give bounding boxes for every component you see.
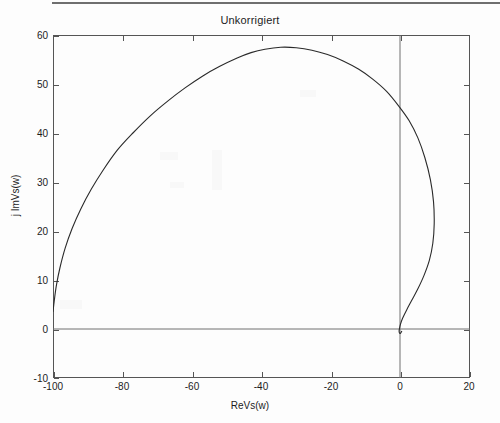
x-tick-label: -60 (185, 381, 199, 392)
y-tick-label: -10 (14, 373, 48, 384)
y-axis-label: j ImVs(w) (10, 156, 21, 236)
y-tick-label: 40 (14, 128, 48, 139)
x-tick-label: -40 (254, 381, 268, 392)
y-tick-label: 50 (14, 79, 48, 90)
chart-title: Unkorrigiert (0, 14, 500, 26)
y-tick-label: 10 (14, 275, 48, 286)
x-tick-label: -80 (115, 381, 129, 392)
plot-canvas (53, 35, 470, 378)
x-tick (470, 372, 471, 377)
x-tick-label: 0 (397, 381, 403, 392)
chart-page: Unkorrigiert -1 (0, 0, 500, 423)
x-tick-label: 20 (463, 381, 474, 392)
nyquist-curve (53, 47, 434, 333)
x-axis-label: ReVs(w) (0, 400, 500, 411)
scan-edge-rule (52, 2, 500, 4)
y-tick-label: 60 (14, 30, 48, 41)
x-tick-label: -20 (324, 381, 338, 392)
y-tick-label: 0 (14, 324, 48, 335)
y-tick (54, 378, 59, 379)
